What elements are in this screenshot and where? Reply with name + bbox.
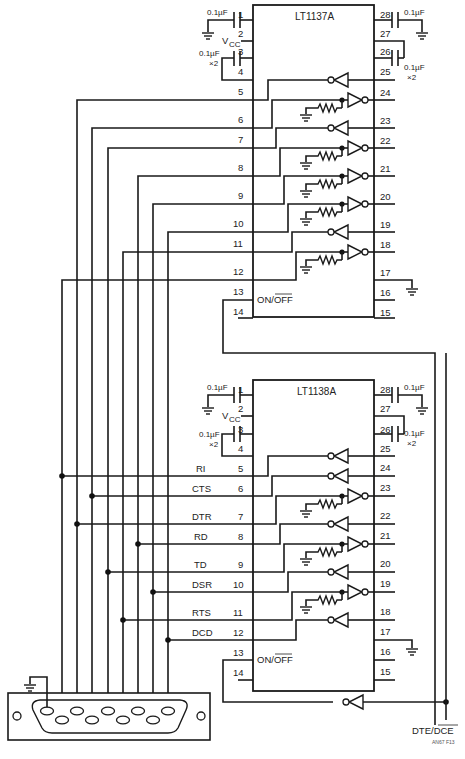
svg-text:0.1µF: 0.1µF	[404, 8, 425, 17]
svg-text:19: 19	[380, 578, 391, 589]
svg-text:2: 2	[238, 403, 243, 414]
signal-ri: RI	[196, 463, 206, 474]
svg-text:7: 7	[238, 134, 243, 145]
right-pin-numbers: 28 27 26 25 24 23 22 21 20 19 18 17 16 1…	[380, 9, 391, 318]
svg-text:22: 22	[380, 135, 391, 146]
svg-text:0.1µF: 0.1µF	[199, 430, 220, 439]
svg-text:×2: ×2	[209, 440, 219, 449]
svg-text:23: 23	[380, 482, 391, 493]
svg-text:25: 25	[380, 66, 391, 77]
svg-text:8: 8	[238, 162, 243, 173]
svg-text:19: 19	[380, 219, 391, 230]
svg-text:27: 27	[380, 403, 391, 414]
svg-text:23: 23	[380, 115, 391, 126]
svg-text:13: 13	[233, 647, 244, 658]
svg-text:11: 11	[233, 238, 243, 249]
svg-text:20: 20	[380, 191, 391, 202]
signal-cts: CTS	[192, 483, 211, 494]
svg-text:0.1µF: 0.1µF	[207, 383, 228, 392]
svg-text:9: 9	[238, 190, 243, 201]
svg-text:5: 5	[238, 86, 243, 97]
svg-text:24: 24	[380, 462, 391, 473]
signal-dcd: DCD	[192, 627, 213, 638]
svg-text:16: 16	[380, 646, 391, 657]
svg-text:×2: ×2	[407, 439, 417, 448]
svg-text:CC: CC	[229, 40, 241, 49]
svg-text:11: 11	[233, 607, 243, 618]
cap-pin3-4: 0.1µF ×2	[199, 49, 253, 80]
svg-text:17: 17	[380, 626, 391, 637]
chip-lt1138a: LT1138A 1 2 3 4 5 6 7 8 9 10 11 12 13 14…	[192, 380, 428, 702]
svg-text:28: 28	[380, 9, 391, 20]
signal-td: TD	[194, 559, 207, 570]
svg-text:×2: ×2	[209, 59, 219, 68]
svg-text:12: 12	[233, 266, 244, 277]
cap-pin3-4: 0.1µF ×2	[199, 426, 253, 456]
svg-text:V: V	[222, 35, 229, 46]
svg-text:13: 13	[233, 286, 244, 297]
figure-code: AN67 F13	[432, 739, 455, 745]
on-off-label: ON/OFF	[257, 294, 293, 305]
svg-text:27: 27	[380, 28, 391, 39]
svg-text:0.1µF: 0.1µF	[404, 63, 425, 72]
svg-text:5: 5	[238, 463, 243, 474]
svg-text:24: 24	[380, 87, 391, 98]
right-pin-numbers: 28 27 26 25 24 23 22 21 20 19 18 17 16 1…	[380, 384, 391, 677]
svg-text:28: 28	[380, 384, 391, 395]
chip-title: LT1137A	[295, 11, 334, 22]
svg-text:4: 4	[238, 66, 243, 77]
svg-text:0.1µF: 0.1µF	[404, 383, 425, 392]
signal-dtr: DTR	[192, 511, 212, 522]
svg-text:20: 20	[380, 558, 391, 569]
svg-text:12: 12	[233, 627, 244, 638]
svg-text:15: 15	[380, 666, 391, 677]
svg-text:7: 7	[238, 511, 243, 522]
signal-labels: RI CTS DTR RD TD DSR RTS DCD	[192, 463, 213, 638]
chip-title: LT1138A	[297, 386, 336, 397]
svg-text:17: 17	[380, 267, 391, 278]
on-off-label: ON/OFF	[257, 654, 293, 665]
svg-text:2: 2	[238, 28, 243, 39]
svg-text:V: V	[222, 410, 229, 421]
svg-text:10: 10	[233, 579, 244, 590]
svg-text:14: 14	[233, 306, 244, 317]
svg-text:21: 21	[380, 530, 391, 541]
top-bus-wires	[62, 100, 253, 710]
svg-text:21: 21	[380, 163, 391, 174]
svg-text:22: 22	[380, 510, 391, 521]
signal-rts: RTS	[192, 607, 211, 618]
svg-text:16: 16	[380, 287, 391, 298]
svg-text:0.1µF: 0.1µF	[404, 429, 425, 438]
svg-text:26: 26	[380, 46, 391, 57]
svg-text:8: 8	[238, 531, 243, 542]
svg-text:6: 6	[238, 114, 243, 125]
svg-text:9: 9	[238, 559, 243, 570]
svg-text:18: 18	[380, 606, 391, 617]
svg-text:10: 10	[233, 218, 244, 229]
signal-dsr: DSR	[192, 579, 212, 590]
svg-text:×2: ×2	[407, 73, 417, 82]
signal-rd: RD	[194, 531, 208, 542]
svg-text:0.1µF: 0.1µF	[207, 8, 228, 17]
svg-text:CC: CC	[229, 415, 241, 424]
bottom-bus-taps	[59, 473, 253, 643]
svg-text:15: 15	[380, 307, 391, 318]
schematic: LT1137A 1 2 3 4 5 6 7 8 9 10 11 12 13 14…	[0, 0, 465, 759]
db9-connector	[8, 677, 210, 740]
dte-dce-label: DTE/DCE	[412, 725, 454, 736]
svg-text:4: 4	[238, 443, 243, 454]
svg-text:6: 6	[238, 483, 243, 494]
svg-text:14: 14	[233, 667, 244, 678]
svg-text:25: 25	[380, 443, 391, 454]
svg-text:18: 18	[380, 239, 391, 250]
svg-text:0.1µF: 0.1µF	[199, 49, 220, 58]
